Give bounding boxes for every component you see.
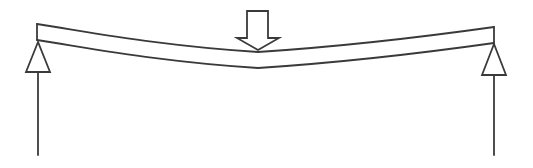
beam-diagram: [0, 0, 533, 168]
